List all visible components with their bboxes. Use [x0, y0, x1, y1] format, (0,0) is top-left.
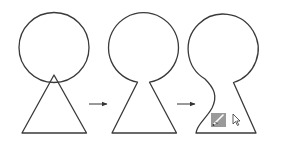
triangle-shape — [22, 75, 87, 133]
step-2-shapes — [109, 13, 179, 133]
arrow-cursor-icon — [233, 114, 240, 126]
circle-shape — [19, 13, 89, 83]
merged-outline — [109, 13, 179, 133]
diagram-canvas — [0, 0, 281, 142]
pencil-smooth-tool-icon[interactable] — [211, 113, 226, 127]
step-1-shapes — [19, 13, 89, 134]
